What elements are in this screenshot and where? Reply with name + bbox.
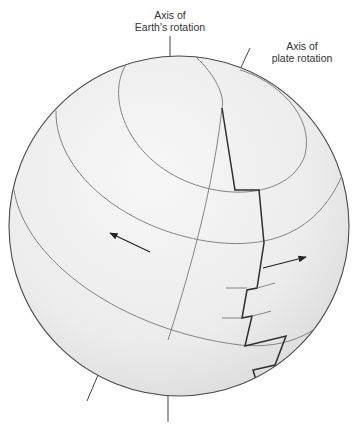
earth-axis-label: Axis of Earth's rotation bbox=[120, 9, 220, 33]
plate-axis-label-line1: Axis of bbox=[262, 40, 342, 52]
earth-axis-label-line2: Earth's rotation bbox=[120, 21, 220, 33]
earth-axis-label-line1: Axis of bbox=[120, 9, 220, 21]
earth-sphere bbox=[9, 56, 349, 396]
plate-axis-bottom bbox=[87, 375, 98, 401]
plate-axis-label: Axis of plate rotation bbox=[262, 40, 342, 64]
plate-axis-label-line2: plate rotation bbox=[262, 52, 342, 64]
